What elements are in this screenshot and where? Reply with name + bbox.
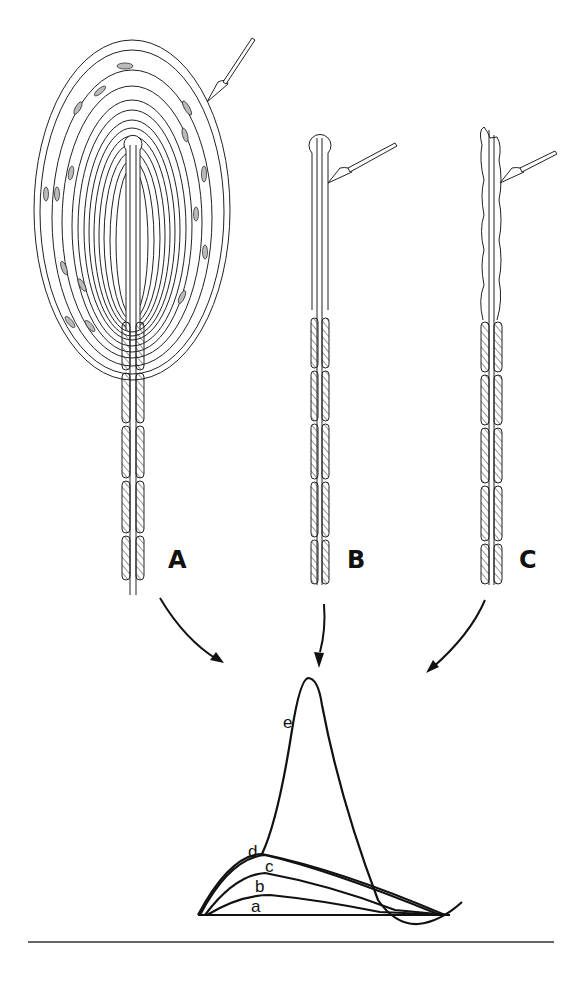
curve-label-e: e bbox=[283, 713, 292, 733]
arrow-c-icon bbox=[432, 600, 485, 668]
myelin-sheath-b bbox=[311, 318, 329, 584]
response-plot bbox=[198, 678, 462, 924]
stimulus-probe-c bbox=[500, 151, 557, 183]
myelin-sheath-a bbox=[122, 322, 144, 580]
curve-label-b: b bbox=[255, 877, 264, 897]
curve-label-c: c bbox=[265, 857, 274, 877]
stimulus-probe-b bbox=[328, 143, 397, 183]
arrow-b-icon bbox=[320, 604, 325, 652]
diagram-canvas bbox=[0, 0, 582, 996]
myelin-sheath-c bbox=[481, 322, 502, 584]
arrow-a-icon bbox=[160, 598, 218, 660]
curve-label-a: a bbox=[251, 897, 260, 917]
panel-label-c: C bbox=[519, 546, 537, 574]
stimulus-probe-a bbox=[207, 38, 255, 102]
panel-label-b: B bbox=[347, 546, 365, 574]
arrowheads bbox=[210, 652, 439, 673]
curve-b bbox=[205, 873, 448, 915]
curve-label-d: d bbox=[248, 842, 257, 862]
panel-label-a: A bbox=[168, 546, 187, 574]
